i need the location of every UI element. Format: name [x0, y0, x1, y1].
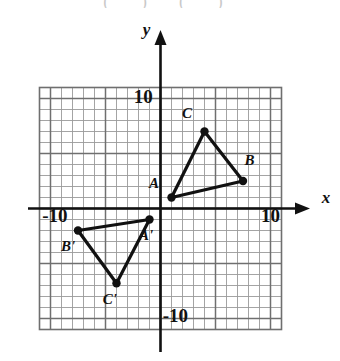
- vertex-point-a-prime: [145, 215, 153, 223]
- tick-label-x-negative: -10: [42, 205, 67, 226]
- plot-labels: ACBA'B'C'10-10-1010xy: [42, 20, 331, 326]
- vertex-label-a-prime: A': [138, 227, 153, 243]
- vertex-point-c: [200, 127, 208, 135]
- vertex-point-b: [239, 177, 247, 185]
- tick-label-x-positive: 10: [261, 205, 280, 226]
- axis-label-y: y: [141, 20, 151, 39]
- x-axis-arrowhead: [295, 203, 310, 215]
- coordinate-plane-svg: ACBA'B'C'10-10-1010xy: [0, 0, 340, 361]
- vertex-label-c: C: [182, 105, 193, 121]
- coordinate-plane-figure: ( ) ( ) ACBA'B'C'10-10-1010xy: [0, 0, 340, 361]
- axis-label-x: x: [321, 188, 331, 207]
- tick-label-y-positive: 10: [134, 86, 153, 107]
- vertex-label-b: B: [244, 152, 255, 168]
- vertex-point-c-prime: [112, 279, 120, 287]
- vertex-label-c-prime: C': [103, 291, 117, 307]
- y-axis-arrowhead: [155, 30, 167, 45]
- tick-label-y-negative: -10: [163, 305, 188, 326]
- axes: [28, 30, 310, 352]
- vertex-point-b-prime: [74, 226, 82, 234]
- vertex-point-a: [167, 193, 175, 201]
- vertex-label-a: A: [148, 175, 159, 191]
- vertex-label-b-prime: B': [60, 238, 75, 254]
